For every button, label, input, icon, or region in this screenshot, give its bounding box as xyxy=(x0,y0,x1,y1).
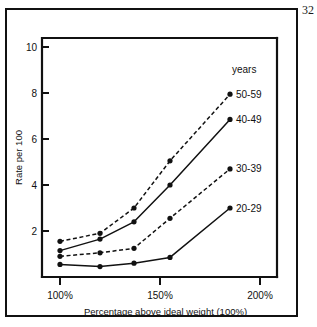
page-number: 32 xyxy=(302,3,316,18)
figure-border xyxy=(5,8,298,317)
figure-container: 32 246810100%150%200% Percentage above i… xyxy=(0,0,317,327)
